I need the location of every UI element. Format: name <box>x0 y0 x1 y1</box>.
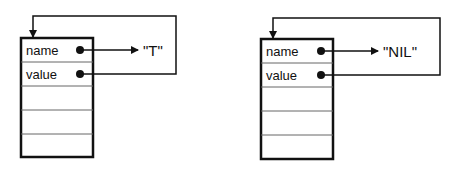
symbol-object-nil: name value "NIL" <box>261 18 440 159</box>
field-label-value: value <box>26 67 57 82</box>
field-label-name: name <box>26 43 59 58</box>
symbol-object-t: name value "T" <box>21 16 176 157</box>
name-target-string: "NIL" <box>383 43 417 60</box>
name-target-string: "T" <box>143 42 163 59</box>
diagram-canvas: name value "T" name value "NIL" <box>0 0 462 169</box>
field-label-value: value <box>266 68 297 83</box>
field-label-name: name <box>266 44 299 59</box>
